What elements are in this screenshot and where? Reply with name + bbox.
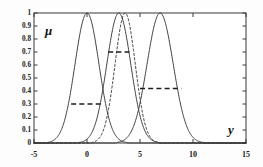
y-tick-label: 0.6 xyxy=(22,61,31,69)
plot-frame xyxy=(34,13,246,143)
y-tick-label: 0 xyxy=(27,139,31,147)
x-tick-label: 15 xyxy=(242,150,250,159)
y-tick-label: 0.8 xyxy=(22,35,31,43)
y-axis-label: μ xyxy=(44,23,52,38)
x-axis-label: y xyxy=(226,122,234,137)
x-tick-label: 10 xyxy=(189,150,197,159)
y-tick-label: 0.2 xyxy=(22,113,31,121)
x-tick-label: -5 xyxy=(31,150,38,159)
chart-root: 00.10.20.30.40.50.60.70.80.91-5051015 μ … xyxy=(0,0,263,167)
y-tick-label: 0.4 xyxy=(22,87,31,95)
y-tick-label: 0.9 xyxy=(22,22,31,30)
x-tick-label: 5 xyxy=(138,150,142,159)
x-tick-label: 0 xyxy=(85,150,89,159)
y-tick-label: 1 xyxy=(27,9,31,17)
membership-function-chart: 00.10.20.30.40.50.60.70.80.91-5051015 μ … xyxy=(0,0,263,167)
plot-area: 00.10.20.30.40.50.60.70.80.91-5051015 μ … xyxy=(0,0,263,167)
y-tick-label: 0.3 xyxy=(22,100,31,108)
y-tick-label: 0.7 xyxy=(22,48,31,56)
y-tick-label: 0.1 xyxy=(22,126,31,134)
y-tick-label: 0.5 xyxy=(22,74,31,82)
